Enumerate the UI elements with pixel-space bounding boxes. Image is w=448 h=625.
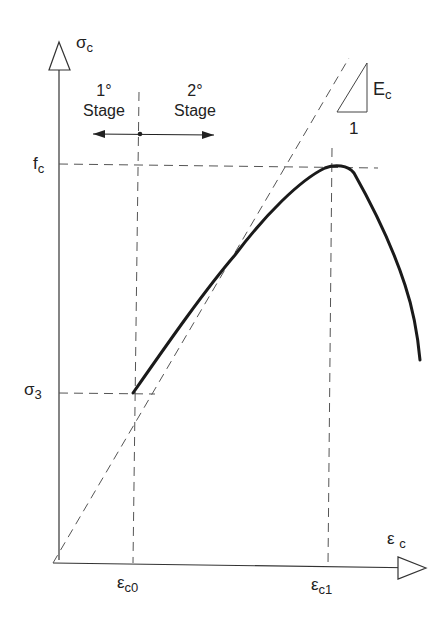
stage-1-label: 1°Stage — [72, 81, 136, 121]
slope-run-label: 1 — [349, 120, 358, 137]
ec0-guide — [133, 92, 139, 563]
ec-modulus-label: Ec — [373, 80, 392, 101]
y-axis-label: σc — [76, 34, 93, 54]
stage-2-label: 2°Stage — [163, 81, 227, 121]
sigma3-label: σ3 — [24, 381, 42, 401]
x-axis-arrow-icon — [398, 557, 426, 579]
sigma3-guide — [59, 393, 155, 394]
arrow-right-icon — [202, 131, 214, 139]
y-axis-arrow-icon — [49, 42, 70, 70]
ec0-label: εc0 — [117, 574, 138, 594]
ec1-label: εc1 — [311, 576, 332, 596]
x-axis-label: ε c — [387, 530, 406, 550]
fc-label: fc — [33, 155, 44, 175]
x-axis — [53, 563, 424, 568]
stress-strain-curve — [133, 166, 420, 393]
stage-point — [138, 132, 143, 137]
stage-divider-line — [93, 134, 214, 135]
ec1-guide — [328, 148, 332, 566]
arrow-left-icon — [93, 130, 105, 138]
